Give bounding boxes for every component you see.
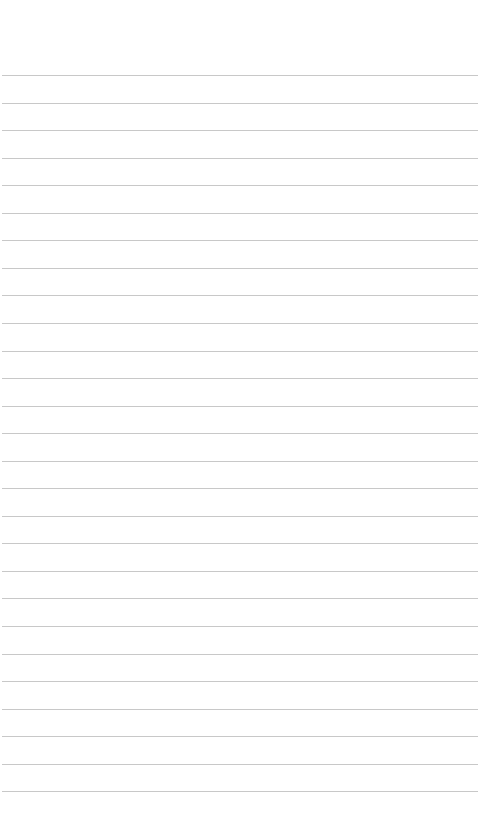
ruled-line	[2, 213, 478, 214]
lined-paper-page	[0, 0, 480, 814]
ruled-line	[2, 654, 478, 655]
ruled-line	[2, 268, 478, 269]
ruled-line	[2, 626, 478, 627]
ruled-line	[2, 295, 478, 296]
ruled-line	[2, 681, 478, 682]
ruled-line	[2, 75, 478, 76]
ruled-line	[2, 103, 478, 104]
ruled-line	[2, 240, 478, 241]
ruled-line	[2, 791, 478, 792]
ruled-line	[2, 709, 478, 710]
ruled-line	[2, 736, 478, 737]
ruled-line	[2, 543, 478, 544]
ruled-line	[2, 571, 478, 572]
ruled-line	[2, 433, 478, 434]
ruled-line	[2, 488, 478, 489]
ruled-line	[2, 764, 478, 765]
ruled-line	[2, 323, 478, 324]
ruled-line	[2, 185, 478, 186]
ruled-line	[2, 516, 478, 517]
ruled-line	[2, 158, 478, 159]
ruled-line	[2, 378, 478, 379]
ruled-line	[2, 130, 478, 131]
ruled-line	[2, 406, 478, 407]
ruled-line	[2, 351, 478, 352]
ruled-line	[2, 598, 478, 599]
ruled-line	[2, 461, 478, 462]
